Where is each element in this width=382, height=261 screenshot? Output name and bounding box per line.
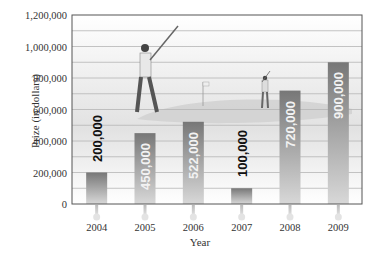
y-tick-label: 0 [62, 199, 67, 210]
bar-data-label: 720,000 [283, 84, 298, 164]
y-tick-label: 200,000 [33, 167, 67, 178]
bar-data-label: 450,000 [138, 127, 153, 207]
x-tick-label: 2007 [231, 222, 252, 233]
y-tick-label: 1,000,000 [25, 41, 67, 52]
y-tick-label: 1,200,000 [25, 10, 67, 21]
bar-data-label: 522,000 [186, 115, 201, 195]
prize-bar-chart: 2004200,0002005450,0002006522,0002007100… [0, 0, 382, 261]
bar-data-label: 200,000 [89, 98, 104, 178]
x-tick-label: 2004 [86, 222, 107, 233]
bar-stem-knob [335, 214, 342, 221]
bar-stem-knob [142, 214, 149, 221]
golfer-figure [141, 44, 149, 52]
x-axis-label: Year [190, 236, 210, 248]
bar-stem-knob [287, 214, 294, 221]
bar-data-label: 900,000 [331, 56, 346, 136]
bar-stem-knob [238, 214, 245, 221]
flag [203, 82, 209, 86]
plot-area [72, 15, 362, 221]
golfer-figure-small [262, 80, 268, 92]
bar-data-label: 100,000 [234, 114, 249, 194]
bar-stem-knob [190, 214, 197, 221]
x-tick-label: 2009 [328, 222, 349, 233]
bar-stem-knob [93, 214, 100, 221]
x-tick-label: 2005 [135, 222, 156, 233]
x-tick-label: 2008 [280, 222, 301, 233]
golfer-figure [140, 53, 151, 77]
y-axis-label: Prize (in dollars) [29, 56, 41, 166]
x-tick-label: 2006 [183, 222, 204, 233]
